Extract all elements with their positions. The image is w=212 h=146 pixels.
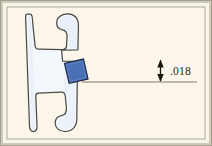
cross-section-drawing: .018	[0, 0, 212, 146]
dimension-value: .018	[170, 65, 191, 77]
figure-root: .018	[0, 0, 212, 146]
contact-area-highlight	[64, 59, 88, 83]
